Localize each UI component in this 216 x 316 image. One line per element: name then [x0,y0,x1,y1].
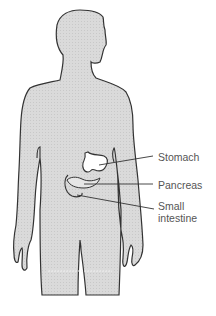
label-small-intestine-line1: Small [158,200,184,212]
label-small-intestine-line2: intestine [158,212,197,224]
label-stomach: Stomach [158,151,199,163]
body-silhouette [14,10,143,295]
label-pancreas: Pancreas [158,179,202,191]
